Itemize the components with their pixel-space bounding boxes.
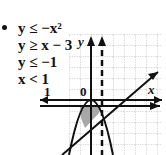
inequality-1: y ≤ −x²	[18, 20, 63, 36]
bullet-icon	[2, 25, 7, 30]
inequality-3: y ≤ −1	[18, 54, 58, 70]
inequality-2: y ≥ x − 3	[18, 37, 73, 53]
x-axis-label: x	[148, 84, 155, 96]
origin-label: 0	[80, 86, 87, 98]
y-axis-label: y	[78, 36, 84, 48]
tick-label: 1	[44, 86, 51, 98]
